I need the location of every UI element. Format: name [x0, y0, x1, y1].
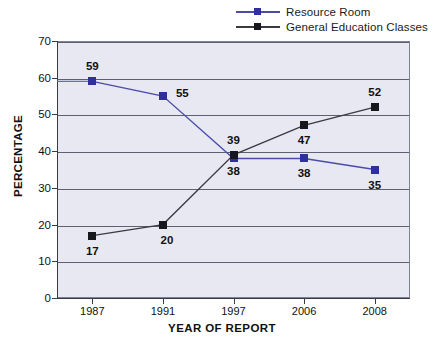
x-axis-tick-mark [375, 299, 376, 304]
data-point-label: 35 [345, 179, 405, 191]
data-point-marker[interactable] [230, 151, 238, 159]
y-axis-tick-label: 50 [23, 108, 51, 120]
square-marker-icon-black [254, 23, 261, 30]
data-point-marker[interactable] [371, 166, 379, 174]
legend-item-general-education-classes[interactable]: General Education Classes [236, 19, 444, 34]
y-axis-tick-label: 70 [23, 35, 51, 47]
data-point-label: 17 [62, 245, 122, 257]
x-axis-tick-label: 1997 [204, 305, 264, 317]
x-axis-tick-mark [234, 299, 235, 304]
data-point-label: 38 [204, 165, 264, 177]
x-axis-tick-mark [163, 299, 164, 304]
y-axis-title: PERCENTAGE [12, 86, 24, 226]
data-point-label: 55 [176, 87, 189, 99]
data-point-marker[interactable] [300, 154, 308, 162]
legend-label-general-education-classes: General Education Classes [280, 21, 428, 33]
data-point-label: 59 [62, 60, 122, 72]
legend-key-general-education-classes [236, 20, 280, 33]
square-marker-icon-blue [254, 8, 261, 15]
data-point-label: 38 [274, 167, 334, 179]
y-axis-tick-label: 0 [23, 292, 51, 304]
y-axis-tick-label: 60 [23, 72, 51, 84]
y-axis-tick-label: 10 [23, 255, 51, 267]
data-point-label: 47 [274, 134, 334, 146]
data-point-marker[interactable] [159, 221, 167, 229]
y-axis-tick-label: 30 [23, 182, 51, 194]
x-axis-tick-mark [304, 299, 305, 304]
data-point-marker[interactable] [371, 103, 379, 111]
data-point-label: 39 [204, 134, 264, 146]
x-axis-tick-label: 2008 [345, 305, 405, 317]
legend-label-resource-room: Resource Room [280, 6, 370, 18]
data-point-marker[interactable] [88, 232, 96, 240]
y-axis-tick-mark [52, 298, 57, 299]
data-point-marker[interactable] [159, 92, 167, 100]
x-axis-title: YEAR OF REPORT [0, 322, 444, 334]
data-point-marker[interactable] [88, 77, 96, 85]
y-axis-tick-label: 40 [23, 145, 51, 157]
data-point-label: 52 [345, 86, 405, 98]
data-point-label: 20 [137, 234, 197, 246]
legend-key-resource-room [236, 5, 280, 18]
x-axis-tick-label: 2006 [274, 305, 334, 317]
legend-item-resource-room[interactable]: Resource Room [236, 4, 444, 19]
line-chart: Resource Room General Education Classes … [0, 0, 444, 343]
data-point-marker[interactable] [300, 121, 308, 129]
x-axis-tick-label: 1987 [62, 305, 122, 317]
chart-legend: Resource Room General Education Classes [236, 4, 444, 34]
x-axis-tick-label: 1991 [133, 305, 193, 317]
x-axis-tick-mark [92, 299, 93, 304]
y-axis-tick-label: 20 [23, 219, 51, 231]
